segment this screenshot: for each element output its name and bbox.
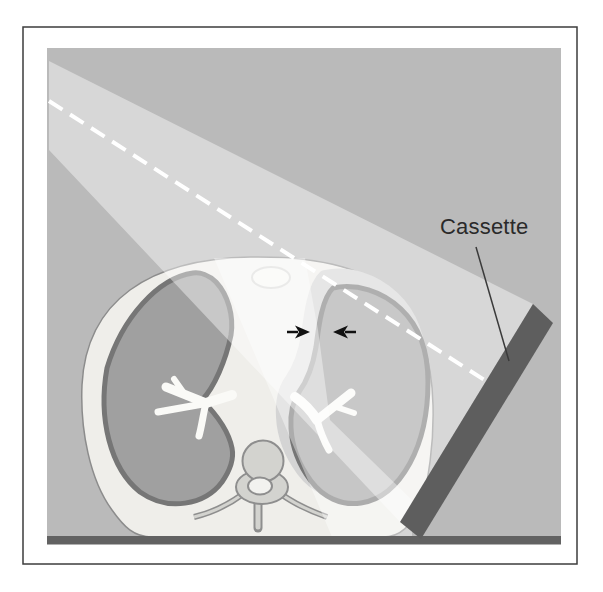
figure-page: Cassette xyxy=(0,0,603,592)
vertebra-body xyxy=(243,441,284,482)
cassette-label: Cassette xyxy=(440,214,528,239)
figure-canvas: Cassette xyxy=(0,0,603,592)
table-surface xyxy=(47,536,561,545)
vertebra-spinal-canal xyxy=(248,478,272,495)
